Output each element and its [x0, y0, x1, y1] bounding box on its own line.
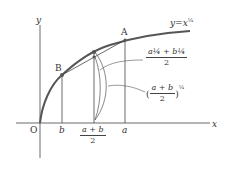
- point-b-label: B: [55, 64, 62, 73]
- tick-mid-label: a + b 2: [80, 126, 106, 145]
- tick-b-label: b: [59, 126, 65, 135]
- arc-inner: [95, 57, 100, 120]
- leader-chord: [100, 60, 143, 70]
- y-axis-label: y: [36, 16, 41, 25]
- curve-y-x-quarter: [40, 31, 190, 123]
- curve-mid-annotation: ( a + b 2 ) ¼: [146, 84, 184, 103]
- curve-label: y=x¼: [170, 18, 193, 28]
- point-a: [124, 39, 127, 42]
- chord-mid-annotation: a¼ + b¼ 2: [146, 48, 187, 67]
- point-b: [60, 73, 64, 77]
- leader-curve: [108, 85, 145, 92]
- x-axis-label: x: [212, 120, 217, 129]
- point-a-label: A: [121, 28, 128, 37]
- diagram-canvas: [0, 0, 230, 170]
- tick-a-label: a: [122, 126, 127, 135]
- origin-label: O: [30, 126, 37, 135]
